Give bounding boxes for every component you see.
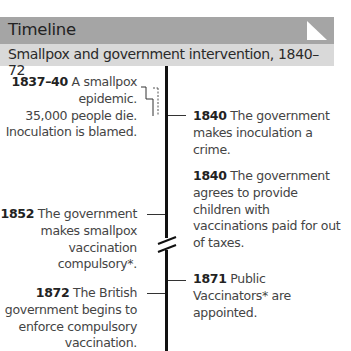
tick-1871	[168, 280, 186, 281]
page-fold-icon	[306, 20, 328, 41]
event-1872: 1872 The British government begins to en…	[5, 285, 137, 351]
event-1840-inoculation-crime: 1840 The government makes inoculation a …	[193, 108, 330, 158]
event-1837-40: 1837–40 A smallpox epidemic. 35,000 peop…	[6, 74, 137, 141]
header-title: Timeline	[8, 20, 76, 39]
tick-1872	[147, 293, 165, 294]
bracket-connector	[140, 82, 170, 122]
tick-1840a	[168, 115, 186, 116]
timeline-axis-lower	[165, 250, 168, 351]
tick-1852	[147, 214, 165, 215]
timeline-subtitle-bar: Smallpox and government intervention, 18…	[0, 44, 334, 66]
event-1871: 1871 Public Vaccinators* are appointed.	[193, 271, 291, 321]
timeline-header: Timeline	[0, 17, 334, 44]
double-slash-break-icon	[155, 234, 179, 256]
event-1852: 1852 The government makes smallpox vacci…	[1, 206, 138, 273]
event-1840-vaccinations-paid: 1840 The government agrees to provide ch…	[193, 168, 340, 252]
